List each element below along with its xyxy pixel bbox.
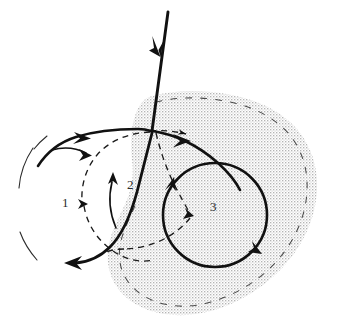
region-2-inner-arc-arrow [110,182,116,228]
diagram-canvas: 1 2 3 [0,0,338,331]
region-1-label: 1 [62,196,69,209]
diagram-vector-layer [0,0,338,331]
region-1-dashed-arrowhead [78,199,88,209]
region-1-short-arrowhead [79,149,92,161]
region-2-label: 2 [127,178,134,191]
region-3-label: 3 [210,200,217,213]
region-1-dashed-boundary-arc [19,136,47,260]
region-2-inner-arc-arrowhead [108,172,118,185]
